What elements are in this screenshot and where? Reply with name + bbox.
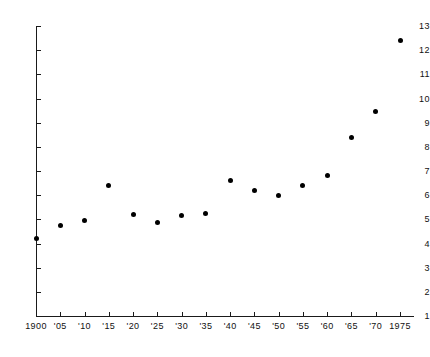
x-tick-label: '60: [321, 322, 334, 331]
y-tick-mark: [37, 171, 41, 172]
y-tick-mark: [37, 50, 41, 51]
data-point: [131, 212, 136, 217]
y-tick-mark: [37, 244, 41, 245]
y-tick-label: 2: [402, 288, 430, 297]
y-tick-label: 6: [402, 191, 430, 200]
x-tick-label: '20: [127, 322, 140, 331]
x-tick-mark: [279, 312, 280, 316]
y-tick-label: 10: [402, 95, 430, 104]
y-tick-label: 11: [402, 70, 430, 79]
y-tick-label: 4: [402, 240, 430, 249]
y-tick-label: 1: [402, 312, 430, 321]
x-tick-mark: [351, 312, 352, 316]
x-tick-mark: [400, 312, 401, 316]
data-point: [276, 193, 281, 198]
data-point: [203, 211, 208, 216]
x-axis-line: [36, 316, 414, 317]
y-tick-mark: [37, 292, 41, 293]
y-tick-mark: [37, 195, 41, 196]
data-point: [82, 218, 87, 223]
data-point: [179, 213, 184, 218]
x-tick-mark: [157, 312, 158, 316]
x-tick-label: '15: [102, 322, 115, 331]
x-tick-label: '45: [248, 322, 261, 331]
y-tick-mark: [37, 219, 41, 220]
x-tick-label: '55: [296, 322, 309, 331]
x-tick-mark: [60, 312, 61, 316]
x-tick-mark: [133, 312, 134, 316]
y-tick-mark: [37, 316, 41, 317]
y-tick-label: 8: [402, 143, 430, 152]
data-point: [373, 109, 378, 114]
data-point: [106, 183, 111, 188]
data-point: [58, 223, 63, 228]
y-tick-mark: [37, 123, 41, 124]
y-tick-label: 9: [402, 119, 430, 128]
x-tick-label: '70: [369, 322, 382, 331]
y-tick-mark: [37, 74, 41, 75]
scatter-chart: 12345678910111213 1900'05'10'15'20'25'30…: [0, 0, 430, 357]
x-tick-mark: [36, 312, 37, 316]
x-tick-mark: [206, 312, 207, 316]
x-tick-mark: [109, 312, 110, 316]
x-tick-label: '05: [54, 322, 67, 331]
y-tick-mark: [37, 99, 41, 100]
y-tick-mark: [37, 147, 41, 148]
x-tick-label: 1975: [389, 322, 411, 331]
data-point: [300, 183, 305, 188]
x-tick-mark: [327, 312, 328, 316]
x-tick-label: '35: [199, 322, 212, 331]
x-tick-label: '50: [272, 322, 285, 331]
data-point: [325, 173, 330, 178]
data-point: [252, 188, 257, 193]
y-tick-mark: [37, 268, 41, 269]
x-tick-label: '65: [345, 322, 358, 331]
y-tick-label: 13: [402, 22, 430, 31]
x-tick-mark: [182, 312, 183, 316]
x-tick-label: '10: [78, 322, 91, 331]
x-tick-mark: [303, 312, 304, 316]
data-point: [34, 236, 39, 241]
y-tick-label: 3: [402, 264, 430, 273]
x-tick-label: '40: [224, 322, 237, 331]
y-tick-label: 12: [402, 46, 430, 55]
y-tick-label: 7: [402, 167, 430, 176]
data-point: [228, 178, 233, 183]
x-tick-label: '25: [151, 322, 164, 331]
x-tick-label: 1900: [25, 322, 47, 331]
data-point: [398, 38, 403, 43]
x-tick-mark: [376, 312, 377, 316]
data-point: [155, 220, 160, 225]
data-point: [349, 135, 354, 140]
x-tick-mark: [230, 312, 231, 316]
x-tick-mark: [85, 312, 86, 316]
y-tick-label: 5: [402, 215, 430, 224]
x-tick-label: '30: [175, 322, 188, 331]
x-tick-mark: [254, 312, 255, 316]
plot-area: 12345678910111213 1900'05'10'15'20'25'30…: [0, 0, 430, 357]
y-tick-mark: [37, 26, 41, 27]
